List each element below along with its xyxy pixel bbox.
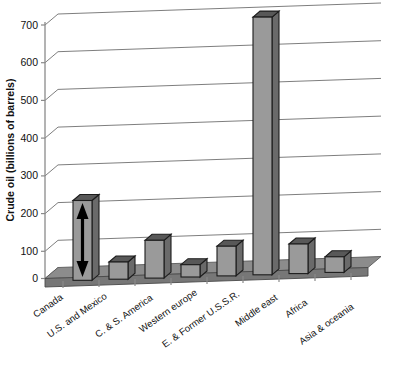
- y-tick-label: 200: [20, 207, 38, 219]
- bars: [73, 11, 351, 280]
- x-tick-label-canada: Canada: [31, 291, 65, 320]
- y-tick-label: 400: [20, 132, 38, 144]
- x-tick-label-e-former-ussr: E. & Former U.S.S.R.: [160, 288, 241, 350]
- y-tick-label: 300: [20, 169, 38, 181]
- y-tick-labels: 700 600 500 400 300 200 100 0: [20, 19, 38, 285]
- bar-asia-oceania[interactable]: [325, 251, 351, 273]
- y-axis-title: Crude oil (billions of barrels): [4, 79, 16, 222]
- bar-c-s-america[interactable]: [145, 234, 171, 278]
- gridlines: [58, 3, 381, 240]
- x-tick-label-africa: Africa: [283, 296, 310, 319]
- bar-us-and-mexico[interactable]: [109, 256, 135, 279]
- chart-container: Crude oil (billions of barrels): [0, 0, 393, 370]
- y-tick-label: 100: [20, 245, 38, 257]
- bar-middle-east[interactable]: [253, 11, 279, 275]
- bar-e-former-ussr[interactable]: [217, 240, 243, 276]
- bar-western-europe[interactable]: [181, 259, 207, 277]
- y-tick-label: 700: [20, 19, 38, 31]
- y-tick-label: 0: [32, 272, 38, 284]
- y-tick-label: 500: [20, 94, 38, 106]
- bar-africa[interactable]: [289, 238, 315, 274]
- y-tick-label: 600: [20, 56, 38, 68]
- bar-chart: Crude oil (billions of barrels): [0, 0, 393, 370]
- axis-depth-connectors: [45, 14, 58, 279]
- x-axis-labels: Canada U.S. and Mexico C. & S. America W…: [31, 287, 356, 350]
